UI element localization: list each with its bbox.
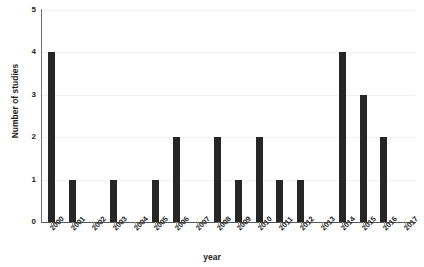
- y-tick-label: 5: [8, 6, 36, 14]
- y-axis-tick-labels: 012345: [5, 0, 36, 267]
- bar: [214, 137, 221, 222]
- y-tick-label: 2: [8, 133, 36, 141]
- y-tick-label: 1: [8, 176, 36, 184]
- y-tick-label: 3: [8, 91, 36, 99]
- y-tick-label: 4: [8, 48, 36, 56]
- bar: [235, 180, 242, 222]
- bar: [152, 180, 159, 222]
- gridline: [41, 10, 415, 11]
- bar: [110, 180, 117, 222]
- plot-area: [41, 10, 415, 222]
- bar-chart-figure: · ·· ·· Number of studies 012345 2000200…: [0, 0, 424, 267]
- bar: [173, 137, 180, 222]
- bar: [256, 137, 263, 222]
- bar: [69, 180, 76, 222]
- bar: [48, 52, 55, 222]
- y-tick-label: 0: [8, 218, 36, 226]
- gridline: [41, 52, 415, 53]
- bar: [360, 95, 367, 222]
- clipped-title-remnant: · ·· ··: [96, 0, 126, 1]
- bar: [380, 137, 387, 222]
- bar: [339, 52, 346, 222]
- y-axis-line: [41, 9, 42, 223]
- x-axis-title: year: [0, 252, 424, 262]
- bar: [297, 180, 304, 222]
- bar: [276, 180, 283, 222]
